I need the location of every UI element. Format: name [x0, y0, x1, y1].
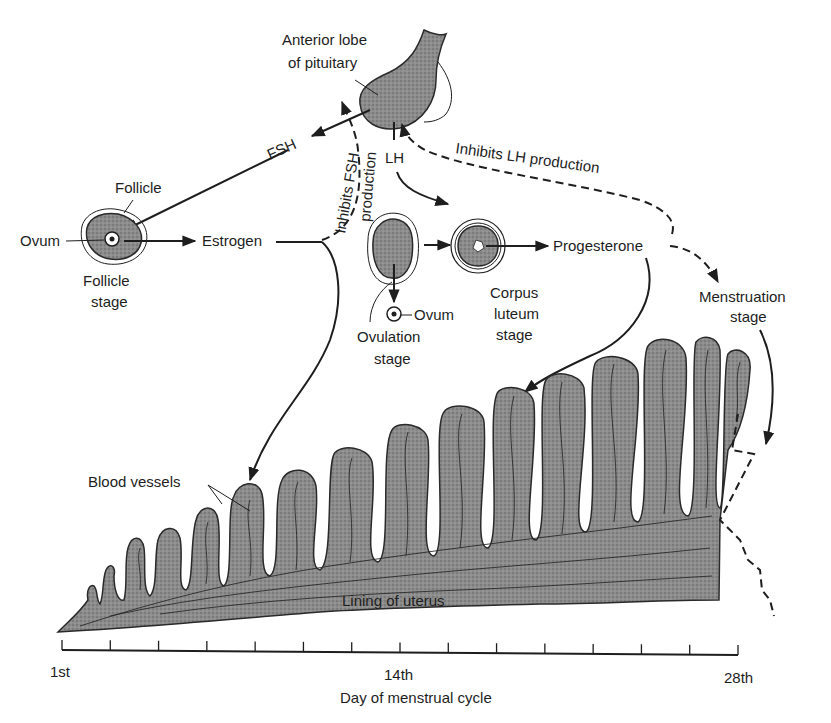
- label-inhibits-lh: Inhibits LH production: [455, 139, 601, 176]
- pituitary-gland: [355, 30, 452, 129]
- label-follicle-stage-line1: Follicle: [83, 272, 130, 289]
- label-ovulation-stage-line1: Ovulation: [357, 328, 420, 345]
- label-menstruation-line1: Menstruation: [699, 288, 786, 305]
- axis-label-1st: 1st: [50, 663, 71, 680]
- label-follicle-stage-line2: stage: [91, 293, 128, 310]
- axis-label-14th: 14th: [384, 666, 413, 683]
- label-ovum-left: Ovum: [20, 232, 60, 249]
- label-fsh: FSH: [264, 135, 298, 163]
- label-blood-vessels: Blood vessels: [88, 473, 181, 490]
- label-ovulation-stage-line2: stage: [374, 350, 411, 367]
- label-ovum-ovulation: Ovum: [414, 306, 454, 323]
- menstrual-cycle-diagram: Anterior lobe of pituitary FSH Inhibits …: [0, 0, 831, 723]
- label-corpus-line3: stage: [496, 326, 533, 343]
- follicle-stage-icon: [81, 209, 147, 265]
- label-progesterone: Progesterone: [553, 237, 643, 254]
- label-corpus-line2: luteum: [494, 305, 539, 322]
- axis-title: Day of menstrual cycle: [340, 689, 492, 706]
- label-menstruation-line2: stage: [730, 308, 767, 325]
- label-follicle: Follicle: [115, 179, 162, 196]
- label-pituitary-line1: Anterior lobe: [282, 31, 367, 48]
- label-inhibits-fsh-line1: Inhibits FSH: [331, 151, 362, 234]
- inhibits-lh-dashed-arrow: [402, 124, 673, 234]
- label-corpus-line1: Corpus: [490, 284, 538, 301]
- fsh-arrow: [312, 110, 370, 136]
- axis-label-28th: 28th: [724, 669, 753, 686]
- label-lining-of-uterus: Lining of uterus: [342, 592, 445, 609]
- label-lh: LH: [385, 149, 404, 166]
- menstruation-to-lining-arrow: [760, 330, 773, 444]
- day-axis: [62, 640, 738, 655]
- lh-arrow: [397, 172, 448, 204]
- label-pituitary-line2: of pituitary: [288, 54, 358, 71]
- estrogen-to-lining-arrow: [250, 242, 338, 480]
- label-estrogen: Estrogen: [202, 232, 262, 249]
- progesterone-to-menstruation-dashed-arrow: [670, 246, 718, 282]
